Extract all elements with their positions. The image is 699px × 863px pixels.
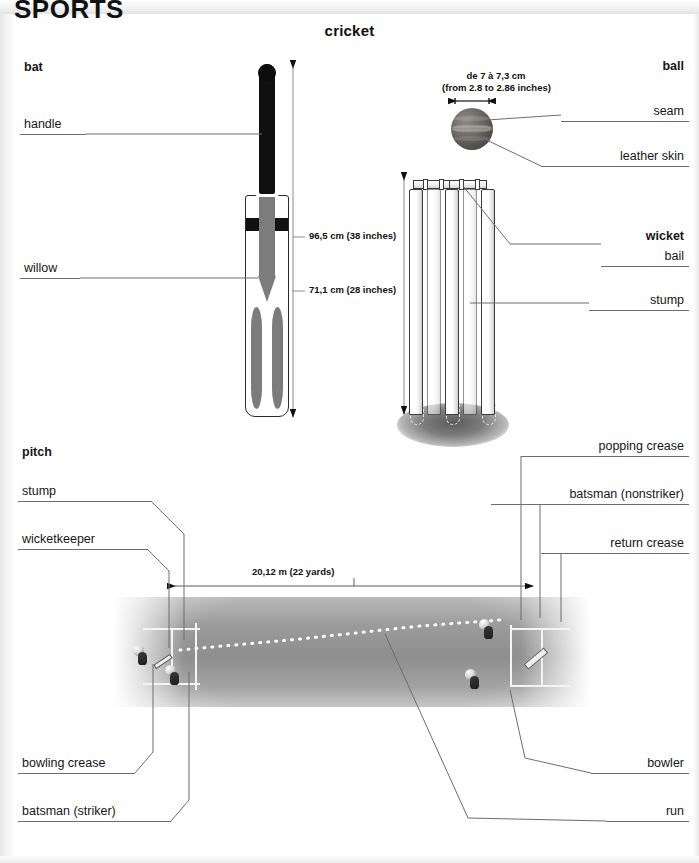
leader-bowler — [510, 690, 591, 773]
leader-seam — [487, 115, 561, 120]
leader-stump-pitch — [151, 501, 184, 640]
leader-leather-skin — [472, 133, 541, 166]
leader-wicketkeeper — [147, 549, 169, 648]
leader-bowling-crease — [135, 664, 153, 773]
leader-line-overlay — [0, 0, 699, 863]
leader-batsman-striker — [171, 672, 189, 821]
ball-trajectory-dotted — [180, 620, 500, 650]
diagram-page: SPORTS cricket bat handle willow 96,5 cm… — [0, 0, 699, 863]
leader-bail — [463, 186, 601, 244]
leader-run — [385, 634, 606, 821]
